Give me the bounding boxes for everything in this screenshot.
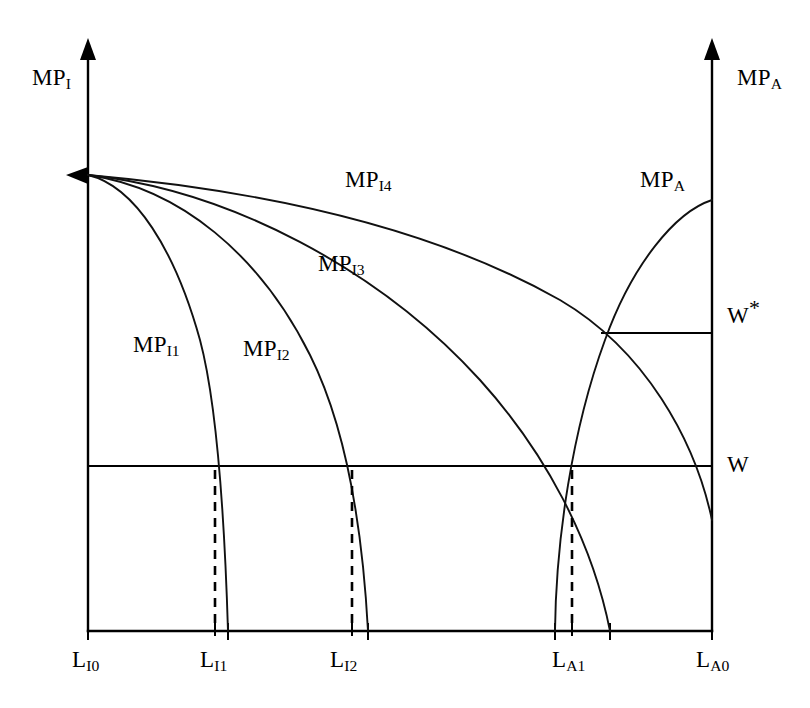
tick-label-li0: LI0 [72, 648, 99, 674]
tick-label-la0-main: L [696, 647, 710, 672]
right-axis-label: MPA [737, 66, 782, 92]
tick-label-li0-main: L [72, 647, 86, 672]
wage-label: W [727, 453, 749, 476]
curve-label-mpi2-main: MP [243, 336, 277, 361]
curve-label-mpa-sub: A [674, 177, 685, 194]
curve-label-mpi4-sub: I4 [379, 177, 392, 194]
origin-arrow-icon [66, 167, 88, 184]
left-axis-label: MPI [32, 66, 71, 92]
curve-label-mpa-main: MP [640, 167, 674, 192]
figure-root: MPI MPA MPI1 MPI2 MPI3 MPI4 MPA W* W LI0… [0, 0, 810, 708]
tick-label-li2: LI2 [330, 648, 357, 674]
dashed-drop-lines-group [215, 470, 572, 631]
wage-lines-group [88, 333, 712, 466]
tick-label-li2-sub: I2 [344, 657, 357, 674]
diagram-canvas [0, 0, 810, 708]
tick-label-la1: LA1 [552, 648, 585, 674]
wage-star-label: W* [727, 298, 760, 327]
curve-label-mpi1-main: MP [133, 332, 167, 357]
curve-label-mpi4-main: MP [345, 167, 379, 192]
curve-label-mpi1: MPI1 [133, 333, 180, 359]
curve-label-mpi3-main: MP [318, 251, 352, 276]
curve-mpi4 [88, 175, 712, 520]
tick-label-la0: LA0 [696, 648, 729, 674]
curves-group [88, 175, 712, 631]
wage-label-text: W [727, 452, 749, 477]
tick-label-li1: LI1 [200, 648, 227, 674]
wage-star-asterisk: * [749, 296, 760, 320]
curve-mpi3 [88, 175, 610, 631]
tick-label-li0-sub: I0 [86, 657, 99, 674]
left-axis-arrow-icon [80, 38, 96, 60]
right-axis-arrow-icon [704, 38, 720, 60]
wage-star-label-text: W [727, 303, 749, 328]
right-axis-label-main: MP [737, 65, 771, 90]
curve-label-mpa: MPA [640, 168, 685, 194]
curve-label-mpi1-sub: I1 [167, 342, 180, 359]
curve-label-mpi2: MPI2 [243, 337, 290, 363]
tick-label-la1-sub: A1 [566, 657, 585, 674]
tick-label-li1-main: L [200, 647, 214, 672]
curve-label-mpi3-sub: I3 [352, 261, 365, 278]
tick-label-la0-sub: A0 [710, 657, 729, 674]
tick-label-li2-main: L [330, 647, 344, 672]
left-axis-label-sub: I [66, 75, 71, 92]
tick-label-li1-sub: I1 [214, 657, 227, 674]
curve-label-mpi2-sub: I2 [277, 346, 290, 363]
left-axis-label-main: MP [32, 65, 66, 90]
tick-label-la1-main: L [552, 647, 566, 672]
right-axis-label-sub: A [771, 75, 782, 92]
curve-mpi1 [88, 175, 228, 631]
curve-mpi2 [88, 175, 368, 631]
curve-label-mpi4: MPI4 [345, 168, 392, 194]
curve-label-mpi3: MPI3 [318, 252, 365, 278]
curve-mpa [555, 200, 712, 631]
